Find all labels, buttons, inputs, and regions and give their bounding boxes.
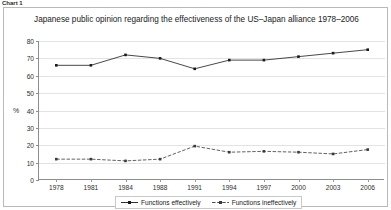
x-axis-tick-label: 2006: [360, 184, 375, 191]
data-point-marker: [228, 59, 231, 62]
data-point-marker: [124, 160, 127, 163]
data-point-marker: [297, 151, 300, 154]
data-point-marker: [90, 158, 93, 161]
x-axis-tick-label: 1994: [222, 184, 237, 191]
data-point-marker: [193, 68, 196, 71]
x-axis-tick-label: 2000: [291, 184, 306, 191]
y-axis-tick-label: 20: [27, 142, 34, 149]
data-point-marker: [332, 52, 335, 55]
data-point-marker: [193, 145, 196, 148]
y-axis-tick-label: 50: [27, 90, 34, 97]
data-point-marker: [124, 54, 127, 57]
y-axis-tick-label: 10: [27, 159, 34, 166]
x-axis-tick-label: 1997: [257, 184, 272, 191]
x-axis-tick-label: 2003: [326, 184, 341, 191]
series-line-0: [56, 50, 367, 69]
chart-title: Japanese public opinion regarding the ef…: [4, 15, 389, 25]
chart-frame: Japanese public opinion regarding the ef…: [3, 7, 388, 207]
series-line-1: [56, 146, 367, 161]
figure-caption-stub: Chart 1: [2, 0, 62, 6]
legend-entry-0[interactable]: Functions effectively: [121, 199, 201, 206]
data-point-marker: [159, 158, 162, 161]
data-point-marker: [263, 150, 266, 153]
x-axis-tick-label: 1991: [187, 184, 202, 191]
x-axis-tick-label: 1981: [84, 184, 99, 191]
chart-figure: Chart 1 Japanese public opinion regardin…: [0, 0, 391, 210]
series-layer: [39, 41, 385, 180]
y-axis-tick-label: 80: [27, 38, 34, 45]
legend-swatch-icon: [212, 199, 229, 206]
plot-area: 01020304050607080 1978198119841988199119…: [38, 41, 384, 180]
data-point-marker: [90, 64, 93, 67]
x-axis-tick-label: 1984: [118, 184, 133, 191]
data-point-marker: [55, 64, 58, 67]
y-tick-mark: [36, 180, 39, 181]
y-axis-tick-label: 70: [27, 55, 34, 62]
data-point-marker: [297, 55, 300, 58]
legend-entry-1[interactable]: Functions ineffectively: [212, 199, 297, 206]
x-axis-tick-label: 1978: [49, 184, 64, 191]
y-axis-title: %: [13, 107, 19, 114]
data-point-marker: [159, 57, 162, 60]
y-axis-tick-label: 30: [27, 124, 34, 131]
chart-legend: Functions effectivelyFunctions ineffecti…: [115, 196, 302, 209]
legend-label: Functions effectively: [141, 199, 201, 206]
y-axis-tick-label: 60: [27, 72, 34, 79]
data-point-marker: [366, 48, 369, 51]
data-point-marker: [366, 148, 369, 151]
y-axis-tick-label: 0: [30, 177, 34, 184]
data-point-marker: [263, 59, 266, 62]
y-axis-tick-label: 40: [27, 107, 34, 114]
data-point-marker: [228, 151, 231, 154]
x-axis-tick-label: 1988: [153, 184, 168, 191]
data-point-marker: [332, 153, 335, 156]
legend-label: Functions ineffectively: [232, 199, 297, 206]
data-point-marker: [55, 158, 58, 161]
legend-swatch-icon: [121, 199, 138, 206]
